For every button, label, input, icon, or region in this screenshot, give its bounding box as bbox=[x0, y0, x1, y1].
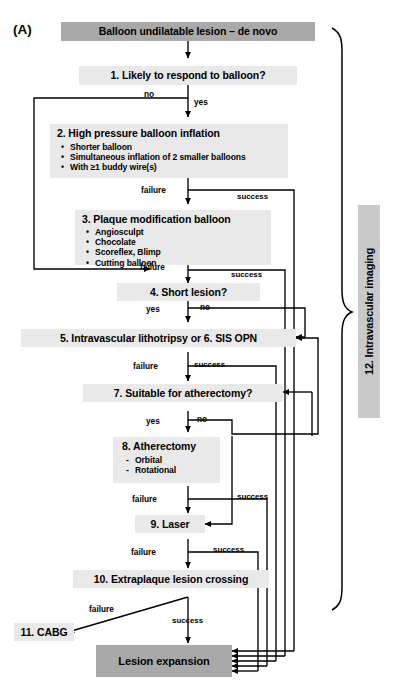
edge-label-s7-no: no bbox=[197, 414, 207, 424]
node-step8-label: 8. Atherectomy bbox=[122, 440, 214, 453]
edge-label-s4-no: no bbox=[200, 302, 210, 312]
node-end: Lesion expansion bbox=[96, 645, 232, 677]
node-step10-label: 10. Extraplaque lesion crossing bbox=[94, 573, 248, 586]
node-start: Balloon undilatable lesion – de novo bbox=[61, 22, 315, 41]
edge-label-s8-failure: failure bbox=[132, 494, 157, 504]
node-step12-label: 12. Intravascular imaging bbox=[363, 248, 375, 375]
bullet-glyph: - bbox=[126, 465, 129, 475]
bullet-glyph: • bbox=[86, 237, 89, 247]
node-step4-label: 4. Short lesion? bbox=[150, 286, 227, 299]
node-step4: 4. Short lesion? bbox=[117, 283, 260, 301]
node-step3-bullets: •Angiosculpt •Chocolate •Scoreflex, Blim… bbox=[82, 227, 265, 268]
edge-label-s3-success: success bbox=[231, 270, 262, 279]
node-step8: 8. Atherectomy -Orbital -Rotational bbox=[113, 437, 220, 483]
node-step3-label: 3. Plaque modification balloon bbox=[82, 213, 265, 226]
panel-tag: (A) bbox=[13, 22, 32, 37]
edge-label-s2-success: success bbox=[237, 192, 268, 201]
node-step2: 2. High pressure balloon inflation •Shor… bbox=[50, 124, 288, 178]
list-item: •Simultaneous inflation of 2 smaller bal… bbox=[57, 152, 282, 162]
edge-label-s7-yes: yes bbox=[146, 416, 160, 426]
bullet-glyph: • bbox=[86, 258, 89, 268]
bullet-glyph: • bbox=[86, 227, 89, 237]
edge-label-s8-success: success bbox=[237, 492, 268, 501]
edge-label-s4-yes: yes bbox=[146, 304, 160, 314]
list-item: •Chocolate bbox=[82, 237, 265, 247]
edge-label-s5-success: success bbox=[194, 360, 225, 369]
edge-label-s2-failure: failure bbox=[141, 185, 166, 195]
node-step11-label: 11. CABG bbox=[20, 626, 67, 639]
node-step10: 10. Extraplaque lesion crossing bbox=[73, 570, 269, 588]
list-item: -Orbital bbox=[122, 455, 214, 465]
node-step12-intravascular-imaging: 12. Intravascular imaging bbox=[358, 205, 380, 418]
bullet-glyph: - bbox=[126, 455, 129, 465]
node-step5-label: 5. Intravascular lithotripsy or 6. SIS O… bbox=[60, 332, 257, 345]
node-step11-cabg: 11. CABG bbox=[14, 623, 74, 641]
node-step8-bullets: -Orbital -Rotational bbox=[122, 455, 214, 475]
list-item: •Angiosculpt bbox=[82, 227, 265, 237]
bullet-glyph: • bbox=[61, 162, 64, 172]
node-step1-label: 1. Likely to respond to balloon? bbox=[111, 69, 266, 82]
edge-label-s9-failure: failure bbox=[131, 547, 156, 557]
node-step2-bullets: •Shorter balloon •Simultaneous inflation… bbox=[57, 142, 282, 173]
bullet-glyph: • bbox=[61, 152, 64, 162]
edge-label-s3-failure: failure bbox=[140, 262, 165, 272]
edge-label-s1-no: no bbox=[144, 89, 154, 99]
bullet-glyph: • bbox=[86, 247, 89, 257]
node-step2-label: 2. High pressure balloon inflation bbox=[57, 127, 282, 140]
list-item: •With ≥1 buddy wire(s) bbox=[57, 162, 282, 172]
node-end-label: Lesion expansion bbox=[118, 655, 209, 668]
node-step7: 7. Suitable for atherectomy? bbox=[83, 384, 283, 402]
edge-label-s10-success: success bbox=[172, 616, 203, 625]
node-step5: 5. Intravascular lithotripsy or 6. SIS O… bbox=[21, 329, 296, 347]
node-step9: 9. Laser bbox=[135, 515, 205, 533]
edge-label-s10-failure: failure bbox=[89, 604, 114, 614]
node-step1: 1. Likely to respond to balloon? bbox=[79, 66, 297, 85]
node-step3: 3. Plaque modification balloon •Angioscu… bbox=[75, 210, 271, 265]
flowchart-canvas: (A) Balloon undilatable lesion – de novo… bbox=[0, 0, 402, 692]
edge-label-s9-success: success bbox=[213, 545, 244, 554]
list-item: •Scoreflex, Blimp bbox=[82, 247, 265, 257]
node-step7-label: 7. Suitable for atherectomy? bbox=[114, 387, 252, 400]
edge-label-s5-failure: failure bbox=[133, 361, 158, 371]
bullet-glyph: • bbox=[61, 142, 64, 152]
edge-label-s1-yes: yes bbox=[194, 97, 208, 107]
node-start-label: Balloon undilatable lesion – de novo bbox=[99, 25, 277, 38]
node-step9-label: 9. Laser bbox=[151, 518, 190, 531]
list-item: •Cutting balloon bbox=[82, 258, 265, 268]
list-item: •Shorter balloon bbox=[57, 142, 282, 152]
list-item: -Rotational bbox=[122, 465, 214, 475]
